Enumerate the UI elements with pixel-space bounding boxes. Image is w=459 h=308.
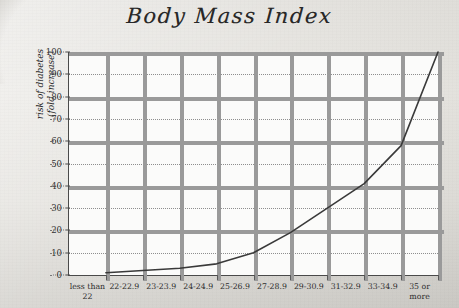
x-gridline [438, 52, 442, 281]
y-tick-label: 70 [51, 114, 62, 124]
y-tick-label: 90 [51, 69, 62, 79]
x-tick-mark [106, 275, 107, 280]
y-tick-label: 100 [46, 47, 62, 57]
x-tick-mark [290, 275, 291, 280]
data-series-line [69, 52, 438, 275]
x-tick-mark [254, 275, 255, 280]
y-tick-label: 60 [51, 136, 62, 146]
y-tick-label: 10 [51, 248, 62, 258]
y-tick-label: 40 [51, 181, 62, 191]
x-tick-mark [327, 275, 328, 280]
plot-area: risk of diabetes (fold increase) 0102030… [68, 52, 438, 276]
x-tick-mark [401, 275, 402, 280]
y-tick-label: 20 [51, 225, 62, 235]
x-tick-mark [438, 275, 439, 280]
y-tick-label: 80 [51, 92, 62, 102]
x-tick-mark [364, 275, 365, 280]
x-tick-mark [180, 275, 181, 280]
y-tick-label: 30 [51, 203, 62, 213]
x-tick-label: 35 or more [398, 282, 442, 301]
chart-title: Body Mass Index [0, 4, 459, 28]
x-tick-mark [217, 275, 218, 280]
y-tick-label: 50 [51, 159, 62, 169]
y-axis-label: risk of diabetes (fold increase) [35, 24, 57, 144]
chart-page: Body Mass Index risk of diabetes (fold i… [0, 0, 459, 308]
series-path [106, 52, 438, 273]
plot-inner: 0102030405060708090100less than 2222-22.… [69, 52, 438, 275]
y-tick-label: 0 [57, 270, 62, 280]
x-tick-mark [143, 275, 144, 280]
